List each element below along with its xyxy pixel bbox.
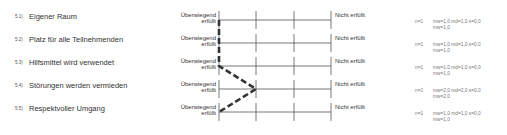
item-number: 5.2) [15, 37, 23, 42]
item-number: 5.5) [15, 106, 23, 111]
right-anchor: Nicht erfüllt [335, 35, 365, 41]
right-anchor: Nicht erfüllt [335, 12, 365, 18]
item-row: 5.4) Störungen werden vermieden Überwieg… [0, 81, 507, 104]
left-anchor: Überwiegenderfüllt [164, 35, 216, 47]
item-stats: n=1mw=2,0 md=2,0 s=0,0mw=2,0 [415, 88, 481, 99]
right-anchor: Nicht erfüllt [335, 81, 365, 87]
item-row: 5.2) Platz für alle Teilnehmenden Überwi… [0, 35, 507, 58]
item-number: 5.3) [15, 60, 23, 65]
left-anchor: Überwiegenderfüllt [164, 81, 216, 93]
right-anchor: Nicht erfüllt [335, 58, 365, 64]
item-number: 5.4) [15, 83, 23, 88]
item-row: 5.3) Hilfsmittel wird verwendet Überwieg… [0, 58, 507, 81]
item-label: Platz für alle Teilnehmenden [29, 35, 123, 44]
item-stats: n=1mw=1,0 md=1,0 s=0,0mw=1,0 [415, 19, 481, 30]
item-row: 5.1) Eigener Raum Überwiegenderfüllt Nic… [0, 12, 507, 35]
item-row: 5.5) Respektvoller Umgang Überwiegenderf… [0, 104, 507, 127]
item-number: 5.1) [15, 14, 23, 19]
item-stats: n=1mw=1,0 md=1,0 s=0,0mw=1,0 [415, 111, 481, 122]
item-stats: n=1mw=1,0 md=1,0 s=0,0mw=1,0 [415, 42, 481, 53]
item-label: Eigener Raum [29, 12, 77, 21]
item-label: Hilfsmittel wird verwendet [29, 58, 114, 67]
left-anchor: Überwiegenderfüllt [164, 58, 216, 70]
left-anchor: Überwiegenderfüllt [164, 104, 216, 116]
item-label: Störungen werden vermieden [29, 81, 127, 90]
item-label: Respektvoller Umgang [29, 104, 105, 113]
left-anchor: Überwiegenderfüllt [164, 12, 216, 24]
item-stats: n=1mw=1,0 md=1,0 s=0,0mw=1,0 [415, 65, 481, 76]
right-anchor: Nicht erfüllt [335, 104, 365, 110]
